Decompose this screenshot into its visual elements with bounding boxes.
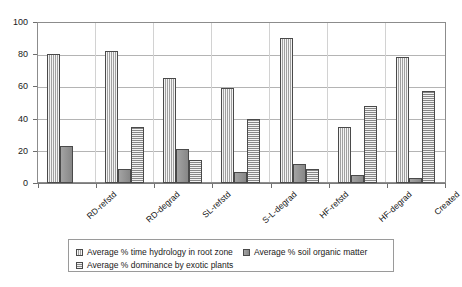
y-tick-label: 100 <box>0 18 28 27</box>
x-axis <box>37 183 446 184</box>
x-tick-mark <box>387 184 388 188</box>
legend-swatch-icon <box>76 262 83 269</box>
x-axis-label-s-l-degrad: S-L-degrad <box>261 190 299 225</box>
y-tick-mark <box>33 119 37 120</box>
x-axis-label-sl-refstd: SL-refstd <box>201 190 233 220</box>
legend-swatch-icon <box>76 249 83 256</box>
x-tick-mark <box>212 184 213 188</box>
y-tick-mark <box>33 22 37 23</box>
bar-1-hf-degrad <box>338 127 351 183</box>
bar-1-s-l-degrad <box>221 88 234 183</box>
x-tick-mark <box>38 184 39 188</box>
y-tick-mark <box>33 54 37 55</box>
bar-1-sl-refstd <box>163 78 176 183</box>
bar-2-s-l-degrad <box>234 172 247 183</box>
y-tick-mark <box>33 151 37 152</box>
y-axis <box>37 22 38 184</box>
legend-item-2: Average % dominance by exotic plants <box>76 260 233 270</box>
legend: Average % time hydrology in root zone Av… <box>68 239 394 272</box>
bar-chart: 020406080100 RD-refstdRD-degradSL-refstd… <box>0 0 462 287</box>
legend-label: Average % dominance by exotic plants <box>87 260 233 270</box>
bar-2-hf-degrad <box>351 175 364 183</box>
x-axis-label-hf-refstd: HF-refstd <box>318 190 350 220</box>
bar-1-hf-refstd <box>280 38 293 183</box>
bar-3-s-l-degrad <box>247 119 260 183</box>
y-tick-label: 40 <box>0 115 28 124</box>
legend-item-1: Average % soil organic matter <box>243 247 367 257</box>
bar-3-hf-refstd <box>306 169 319 183</box>
bar-2-rd-refstd <box>60 146 73 183</box>
bar-3-created <box>422 91 435 183</box>
x-axis-label-rd-degrad: RD-degrad <box>145 190 182 225</box>
x-tick-mark <box>329 184 330 188</box>
x-tick-mark <box>96 184 97 188</box>
bar-3-hf-degrad <box>364 106 377 183</box>
bar-2-hf-refstd <box>293 164 306 183</box>
legend-label: Average % soil organic matter <box>254 247 367 257</box>
x-axis-label-rd-refstd: RD-refstd <box>85 190 118 221</box>
y-tick-mark <box>33 86 37 87</box>
x-tick-mark <box>271 184 272 188</box>
x-axis-label-hf-degrad: HF-degrad <box>377 190 413 224</box>
bar-2-sl-refstd <box>176 149 189 183</box>
legend-label: Average % time hydrology in root zone <box>87 247 233 257</box>
legend-item-0: Average % time hydrology in root zone <box>76 247 233 257</box>
bars-layer <box>38 22 445 183</box>
x-tick-mark <box>154 184 155 188</box>
bar-3-rd-degrad <box>131 127 144 183</box>
x-tick-mark <box>445 184 446 188</box>
legend-swatch-icon <box>243 249 250 256</box>
y-tick-label: 60 <box>0 82 28 91</box>
y-tick-label: 80 <box>0 50 28 59</box>
bar-1-rd-refstd <box>47 54 60 183</box>
x-axis-label-created: Created <box>433 190 462 217</box>
bar-1-rd-degrad <box>105 51 118 183</box>
bar-2-rd-degrad <box>118 169 131 183</box>
y-tick-label: 0 <box>0 179 28 188</box>
y-tick-label: 20 <box>0 147 28 156</box>
bar-1-created <box>396 57 409 183</box>
bar-3-sl-refstd <box>189 160 202 183</box>
